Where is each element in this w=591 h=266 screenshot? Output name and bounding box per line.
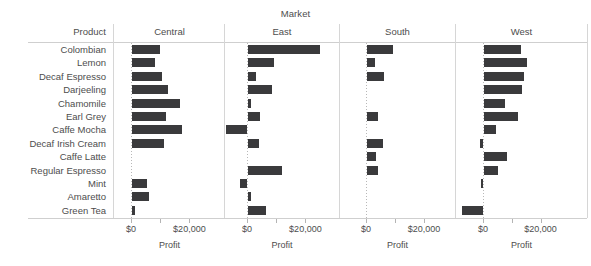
product-label: Decaf Irish Cream bbox=[0, 137, 112, 150]
bar-row bbox=[225, 123, 339, 136]
axis-tick bbox=[131, 219, 132, 223]
bar[interactable] bbox=[480, 139, 483, 148]
bar[interactable] bbox=[367, 112, 378, 121]
bar[interactable] bbox=[132, 72, 162, 81]
bar-row bbox=[340, 97, 455, 110]
panel-header-west: West bbox=[456, 24, 587, 40]
bar-row bbox=[225, 97, 339, 110]
axis-title: Profit bbox=[456, 240, 587, 250]
product-label: Lemon bbox=[0, 56, 112, 69]
bar-row bbox=[225, 150, 339, 163]
bar-row bbox=[114, 177, 225, 190]
product-label: Darjeeling bbox=[0, 83, 112, 96]
axis-tick bbox=[276, 219, 277, 223]
bar[interactable] bbox=[367, 58, 375, 67]
bar[interactable] bbox=[484, 45, 521, 54]
bar[interactable] bbox=[462, 206, 483, 215]
product-label: Earl Grey bbox=[0, 110, 112, 123]
axis-title: Profit bbox=[114, 240, 225, 250]
axis-tick-label: $0 bbox=[126, 224, 136, 234]
product-label-column: ColombianLemonDecaf EspressoDarjeelingCh… bbox=[0, 43, 112, 217]
bar[interactable] bbox=[132, 139, 164, 148]
bar[interactable] bbox=[484, 99, 505, 108]
bar[interactable] bbox=[484, 72, 524, 81]
bar[interactable] bbox=[248, 72, 256, 81]
axis-tick-label: $0 bbox=[478, 224, 488, 234]
bar[interactable] bbox=[132, 206, 135, 215]
bar-row bbox=[114, 123, 225, 136]
bar[interactable] bbox=[484, 112, 518, 121]
bar[interactable] bbox=[248, 166, 282, 175]
bar-row bbox=[340, 83, 455, 96]
bar-row bbox=[225, 43, 339, 56]
bar[interactable] bbox=[132, 58, 155, 67]
tick-row: $0$20,000 bbox=[456, 219, 587, 223]
chart-canvas: Market Product ColombianLemonDecaf Espre… bbox=[0, 0, 591, 266]
bar[interactable] bbox=[481, 179, 483, 188]
bar-row bbox=[114, 204, 225, 217]
bar[interactable] bbox=[367, 72, 384, 81]
bar-row bbox=[225, 164, 339, 177]
product-column-header: Product bbox=[0, 24, 112, 40]
bar[interactable] bbox=[367, 166, 378, 175]
product-label: Green Tea bbox=[0, 204, 112, 217]
product-label: Caffe Latte bbox=[0, 150, 112, 163]
axis-tick-label: $0 bbox=[361, 224, 371, 234]
bar[interactable] bbox=[248, 99, 251, 108]
bar[interactable] bbox=[132, 45, 160, 54]
bar-row bbox=[114, 83, 225, 96]
bar[interactable] bbox=[367, 45, 393, 54]
bar-row bbox=[114, 137, 225, 150]
axis-tick bbox=[189, 219, 190, 223]
bar[interactable] bbox=[484, 58, 527, 67]
bar[interactable] bbox=[132, 192, 149, 201]
bar[interactable] bbox=[248, 192, 251, 201]
bar[interactable] bbox=[484, 125, 496, 134]
bar[interactable] bbox=[484, 152, 507, 161]
bar[interactable] bbox=[248, 85, 272, 94]
bar-row bbox=[114, 150, 225, 163]
bar-row bbox=[114, 164, 225, 177]
bar[interactable] bbox=[226, 125, 247, 134]
product-label: Decaf Espresso bbox=[0, 70, 112, 83]
bar-row bbox=[456, 123, 587, 136]
bar[interactable] bbox=[484, 85, 522, 94]
axis-tick bbox=[424, 219, 425, 223]
x-axis-south: $0$20,000Profit bbox=[340, 219, 455, 265]
bar[interactable] bbox=[240, 179, 247, 188]
bar[interactable] bbox=[132, 125, 182, 134]
bar-row bbox=[456, 190, 587, 203]
bar[interactable] bbox=[132, 99, 180, 108]
bar-row bbox=[340, 177, 455, 190]
panel-header-south: South bbox=[340, 24, 455, 40]
bar[interactable] bbox=[248, 112, 260, 121]
plot-area bbox=[225, 43, 339, 218]
bar-row bbox=[225, 56, 339, 69]
panel-separator-end bbox=[587, 24, 588, 218]
bar[interactable] bbox=[248, 206, 266, 215]
panel-header-central: Central bbox=[114, 24, 225, 40]
bar[interactable] bbox=[248, 139, 259, 148]
bar[interactable] bbox=[248, 45, 320, 54]
bar[interactable] bbox=[132, 112, 166, 121]
bar-row bbox=[340, 150, 455, 163]
bar-row bbox=[456, 56, 587, 69]
bar-row bbox=[225, 70, 339, 83]
bar-row bbox=[456, 164, 587, 177]
bar-row bbox=[456, 43, 587, 56]
axis-tick bbox=[305, 219, 306, 223]
panel-central bbox=[114, 43, 225, 218]
bar[interactable] bbox=[132, 85, 168, 94]
bar[interactable] bbox=[367, 152, 376, 161]
bar[interactable] bbox=[248, 58, 274, 67]
bar-row bbox=[340, 110, 455, 123]
axis-tick-label: $0 bbox=[242, 224, 252, 234]
bar[interactable] bbox=[132, 179, 147, 188]
axis-tick-label: $20,000 bbox=[408, 224, 441, 234]
axis-tick-label: $20,000 bbox=[524, 224, 557, 234]
product-label: Mint bbox=[0, 177, 112, 190]
bar[interactable] bbox=[367, 139, 383, 148]
axis-tick bbox=[512, 219, 513, 223]
bar[interactable] bbox=[484, 166, 498, 175]
x-axis-east: $0$20,000Profit bbox=[225, 219, 339, 265]
